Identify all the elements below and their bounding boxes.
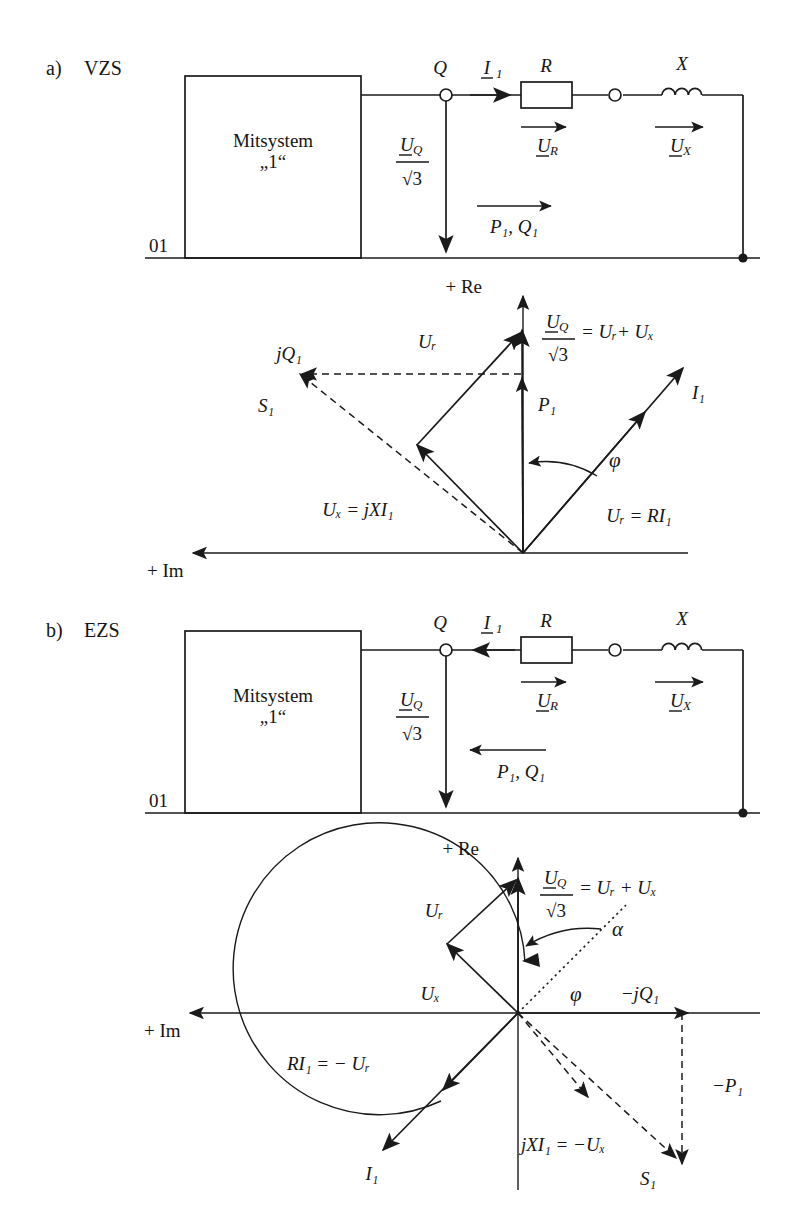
ur-label-a: U R <box>536 135 558 158</box>
phi-label-a: φ <box>609 448 621 472</box>
svg-text:R: R <box>549 143 558 158</box>
figure-svg: a) VZS Mitsystem „1“ 01 Q I 1 R U <box>0 0 812 1205</box>
uq-fraction-a: U Q √3 <box>396 134 429 189</box>
resistor-label-b: R <box>539 610 552 631</box>
ground-label-b: 01 <box>149 790 168 811</box>
vector-i1-mid-a <box>523 412 645 553</box>
i1-label-a: I₁ <box>691 382 705 403</box>
vector-ur-b <box>447 880 516 944</box>
jq1-label-a: jQ₁ <box>273 343 302 364</box>
s1-label-b: S₁ <box>640 1168 656 1189</box>
svg-text:X: X <box>682 698 692 713</box>
i1-label-b: I₁ <box>365 1163 379 1184</box>
re-axis-label-b: + Re <box>442 838 479 859</box>
svg-text:Q: Q <box>557 875 567 890</box>
section-a-phasor: + Re + Im P₁ U Q √3 = Uᵣ+ Uₓ Uᵣ jQ₁ S₁ <box>147 276 705 581</box>
resistor-b <box>521 637 572 663</box>
terminal-q-b <box>440 644 452 656</box>
section-b-phasor: + Re + Im Uₓ Uᵣ U Q √3 = Uᵣ + Uₓ α φ <box>144 823 760 1190</box>
svg-text:= Uᵣ + Uₓ: = Uᵣ + Uₓ <box>579 877 656 898</box>
ux-label-phasor-b: Uₓ <box>420 983 439 1004</box>
p1-label-a: P₁ <box>537 394 556 415</box>
resistor-label-a: R <box>539 55 552 76</box>
svg-text:R: R <box>549 698 558 713</box>
terminal-q-a <box>440 89 452 101</box>
mjq1-label-b: −jQ₁ <box>621 983 659 1004</box>
ur-label-phasor-a: Uᵣ <box>418 331 436 352</box>
vector-ri1-b <box>443 1013 518 1090</box>
section-a-marker: a) <box>46 57 62 80</box>
section-a-circuit: a) VZS Mitsystem „1“ 01 Q I 1 R U <box>46 53 760 263</box>
block-label-line1-b: Mitsystem <box>233 685 313 706</box>
ur-label-phasor-b: Uᵣ <box>425 900 443 921</box>
svg-text:Q: Q <box>559 319 569 334</box>
section-b-marker: b) <box>46 619 63 642</box>
vector-jxi1-b <box>518 1013 588 1097</box>
s1-label-a: S₁ <box>258 395 274 416</box>
ur-label-b: U R <box>536 690 558 713</box>
ux-label-b: U X <box>669 690 692 713</box>
jxi1-equation-b: jXI₁ = −Uₓ <box>518 1134 605 1155</box>
power-flow-label-b: P₁, Q₁ <box>496 761 545 782</box>
ux-label-a: U X <box>669 135 692 158</box>
svg-text:I: I <box>483 612 492 633</box>
ux-equation-a: Uₓ = jXI₁ <box>322 499 393 520</box>
uq-equation-a: U Q √3 = Uᵣ+ Uₓ <box>542 311 654 365</box>
svg-text:1: 1 <box>496 621 503 636</box>
block-label-line2-b: „1“ <box>260 706 286 727</box>
im-axis-label-b: + Im <box>144 1020 181 1041</box>
svg-text:√3: √3 <box>546 900 566 921</box>
vector-ux-b <box>447 944 518 1013</box>
section-b-circuit: b) EZS Mitsystem „1“ 01 Q I 1 R U R <box>46 608 760 818</box>
block-label-line2-a: „1“ <box>260 151 286 172</box>
ur-equation-a: Uᵣ = RI₁ <box>606 505 671 526</box>
phi-label-b: φ <box>570 982 582 1006</box>
vector-s1-a <box>300 374 523 553</box>
inductor-b <box>662 643 702 650</box>
reactance-label-a: X <box>675 53 689 74</box>
terminal-mid-b <box>609 644 621 656</box>
current-label-a: I 1 <box>481 57 503 81</box>
figure-root: a) VZS Mitsystem „1“ 01 Q I 1 R U <box>0 0 812 1205</box>
vector-ux-a <box>417 445 523 553</box>
phi-arc-a <box>529 462 597 476</box>
terminal-mid-a <box>609 89 621 101</box>
section-a-title: VZS <box>84 57 122 79</box>
node-q-label-b: Q <box>433 612 447 633</box>
reactance-label-b: X <box>675 608 689 629</box>
inductor-a <box>662 88 702 95</box>
ri1-equation-b: RI₁ = − Uᵣ <box>286 1053 370 1074</box>
ground-label-a: 01 <box>149 235 168 256</box>
svg-text:= Uᵣ+ Uₓ: = Uᵣ+ Uₓ <box>581 321 654 342</box>
svg-text:I: I <box>483 57 492 78</box>
block-label-line1-a: Mitsystem <box>233 130 313 151</box>
svg-text:√3: √3 <box>402 168 422 189</box>
alpha-label-b: α <box>612 917 624 941</box>
alpha-arc-b <box>526 928 601 946</box>
uq-equation-b: U Q √3 = Uᵣ + Uₓ <box>540 867 656 921</box>
section-b-title: EZS <box>84 619 120 641</box>
resistor-a <box>521 82 572 108</box>
svg-text:Q: Q <box>413 697 423 712</box>
re-axis-label-a: + Re <box>445 276 482 297</box>
phi-arc-b <box>233 823 525 1115</box>
vector-p1-a <box>522 378 523 553</box>
im-axis-label-a: + Im <box>147 560 184 581</box>
svg-text:1: 1 <box>496 66 503 81</box>
uq-fraction-b: U Q √3 <box>396 689 429 744</box>
svg-text:X: X <box>682 143 692 158</box>
mp1-label-b: −P₁ <box>712 1075 743 1096</box>
node-q-label-a: Q <box>433 57 447 78</box>
junction-dot-b <box>738 808 747 817</box>
svg-text:√3: √3 <box>548 344 568 365</box>
junction-dot-a <box>738 253 747 262</box>
svg-text:√3: √3 <box>402 723 422 744</box>
current-label-b: I 1 <box>481 612 503 636</box>
svg-text:Q: Q <box>413 142 423 157</box>
power-flow-label-a: P₁, Q₁ <box>489 216 538 237</box>
